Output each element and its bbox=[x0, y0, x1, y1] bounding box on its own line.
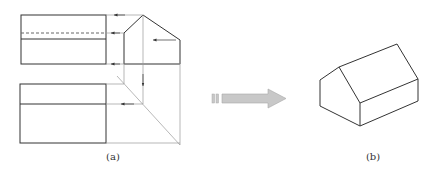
label-b: (b) bbox=[366, 151, 380, 162]
figure-b-isometric bbox=[320, 44, 418, 126]
transition-arrow bbox=[212, 89, 286, 108]
top-view bbox=[20, 84, 106, 143]
side-view bbox=[124, 15, 180, 64]
figure-a bbox=[20, 15, 180, 145]
front-view bbox=[21, 15, 106, 64]
label-a: (a) bbox=[106, 151, 120, 162]
projection-arrows bbox=[111, 15, 176, 104]
